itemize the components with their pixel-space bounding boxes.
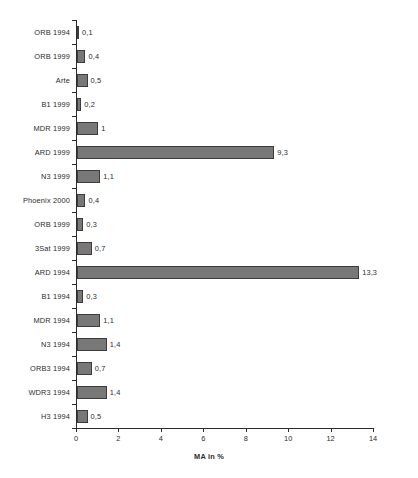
x-axis-tick bbox=[246, 428, 247, 432]
bar-value-label: 1,4 bbox=[110, 340, 121, 349]
bar-value-label: 0,3 bbox=[86, 292, 97, 301]
bar bbox=[77, 98, 81, 111]
bar-row: WDR3 19941,4 bbox=[0, 380, 418, 404]
bar bbox=[77, 122, 98, 135]
bar bbox=[77, 50, 85, 63]
bar bbox=[77, 290, 83, 303]
bar-track: 1 bbox=[77, 116, 418, 140]
category-label: ORB 1999 bbox=[0, 52, 70, 61]
y-axis-tick bbox=[72, 44, 77, 45]
bar-value-label: 1,4 bbox=[110, 388, 121, 397]
category-label: Arte bbox=[0, 76, 70, 85]
category-label: WDR3 1994 bbox=[0, 388, 70, 397]
x-axis-title: MA in % bbox=[0, 452, 418, 461]
bar bbox=[77, 362, 92, 375]
bar-value-label: 9,3 bbox=[277, 148, 288, 157]
category-label: Phoenix 2000 bbox=[0, 196, 70, 205]
bar-row: ORB 19940,1 bbox=[0, 20, 418, 44]
x-axis-tick bbox=[373, 428, 374, 432]
x-axis-tick-label: 12 bbox=[326, 434, 334, 443]
y-axis-tick bbox=[72, 212, 77, 213]
category-label: MDR 1994 bbox=[0, 316, 70, 325]
bar bbox=[77, 266, 359, 279]
bar-track: 0,1 bbox=[77, 20, 418, 44]
x-axis-tick-label: 4 bbox=[159, 434, 163, 443]
y-axis-tick bbox=[72, 140, 77, 141]
bar-row: MDR 19991 bbox=[0, 116, 418, 140]
y-axis-tick bbox=[72, 380, 77, 381]
bar-track: 0,4 bbox=[77, 188, 418, 212]
y-axis-tick bbox=[72, 308, 77, 309]
x-axis-tick bbox=[288, 428, 289, 432]
bar-value-label: 0,5 bbox=[91, 76, 102, 85]
y-axis-tick bbox=[72, 188, 77, 189]
bar-value-label: 0,5 bbox=[91, 412, 102, 421]
x-axis-tick bbox=[161, 428, 162, 432]
bar-track: 1,4 bbox=[77, 332, 418, 356]
bar-track: 9,3 bbox=[77, 140, 418, 164]
bar-value-label: 0,2 bbox=[84, 100, 95, 109]
bar bbox=[77, 410, 88, 423]
bar-value-label: 0,7 bbox=[95, 244, 106, 253]
bar-track: 0,4 bbox=[77, 44, 418, 68]
bar-row: ARD 199413,3 bbox=[0, 260, 418, 284]
y-axis-tick bbox=[72, 404, 77, 405]
y-axis-tick bbox=[72, 356, 77, 357]
bar-track: 0,3 bbox=[77, 284, 418, 308]
bar-track: 0,5 bbox=[77, 68, 418, 92]
y-axis-tick bbox=[72, 284, 77, 285]
bar bbox=[77, 338, 107, 351]
bar bbox=[77, 146, 274, 159]
bar-value-label: 1,1 bbox=[103, 172, 114, 181]
bar-track: 13,3 bbox=[77, 260, 418, 284]
x-axis-tick bbox=[331, 428, 332, 432]
y-axis-tick bbox=[72, 332, 77, 333]
y-axis-tick bbox=[72, 68, 77, 69]
bar-value-label: 1 bbox=[101, 124, 105, 133]
y-axis-tick bbox=[72, 116, 77, 117]
plot-area: ORB 19940,1ORB 19990,4Arte0,5B1 19990,2M… bbox=[0, 0, 418, 478]
bar-rows: ORB 19940,1ORB 19990,4Arte0,5B1 19990,2M… bbox=[0, 20, 418, 428]
x-axis-line bbox=[76, 428, 374, 429]
x-axis-tick-label: 0 bbox=[74, 434, 78, 443]
x-axis-tick-label: 6 bbox=[201, 434, 205, 443]
bar bbox=[77, 74, 88, 87]
bar-value-label: 0,1 bbox=[82, 28, 93, 37]
bar bbox=[77, 170, 100, 183]
y-axis-tick bbox=[72, 92, 77, 93]
category-label: N3 1994 bbox=[0, 340, 70, 349]
bar-value-label: 1,1 bbox=[103, 316, 114, 325]
bar-chart: ORB 19940,1ORB 19990,4Arte0,5B1 19990,2M… bbox=[0, 0, 418, 478]
x-axis-tick-label: 2 bbox=[116, 434, 120, 443]
y-axis-tick bbox=[72, 236, 77, 237]
y-axis-tick bbox=[72, 164, 77, 165]
x-axis-tick bbox=[118, 428, 119, 432]
bar-row: H3 19940,5 bbox=[0, 404, 418, 428]
bar-row: B1 19940,3 bbox=[0, 284, 418, 308]
category-label: H3 1994 bbox=[0, 412, 70, 421]
bar-row: ORB3 19940,7 bbox=[0, 356, 418, 380]
category-label: B1 1999 bbox=[0, 100, 70, 109]
bar-track: 1,1 bbox=[77, 308, 418, 332]
category-label: ORB3 1994 bbox=[0, 364, 70, 373]
x-axis-tick bbox=[203, 428, 204, 432]
bar bbox=[77, 218, 83, 231]
y-axis-tick bbox=[72, 20, 77, 21]
x-axis-tick-label: 8 bbox=[244, 434, 248, 443]
bar bbox=[77, 194, 85, 207]
bar-row: 3Sat 19990,7 bbox=[0, 236, 418, 260]
category-label: MDR 1999 bbox=[0, 124, 70, 133]
bar-row: N3 19941,4 bbox=[0, 332, 418, 356]
y-axis-tick bbox=[72, 260, 77, 261]
bar-track: 0,3 bbox=[77, 212, 418, 236]
category-label: ORB 1999 bbox=[0, 220, 70, 229]
bar-value-label: 0,7 bbox=[95, 364, 106, 373]
bar-row: MDR 19941,1 bbox=[0, 308, 418, 332]
bar-row: Phoenix 20000,4 bbox=[0, 188, 418, 212]
category-label: N3 1999 bbox=[0, 172, 70, 181]
bar-value-label: 0,3 bbox=[86, 220, 97, 229]
bar-value-label: 13,3 bbox=[362, 268, 377, 277]
bar bbox=[77, 386, 107, 399]
bar bbox=[77, 26, 79, 39]
bar bbox=[77, 314, 100, 327]
